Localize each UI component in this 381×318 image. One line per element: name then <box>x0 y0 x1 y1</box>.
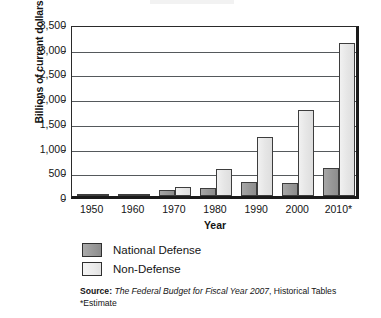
y-axis-tick-label: 1,500 <box>20 118 66 130</box>
y-axis-tick-label: 2,500 <box>20 68 66 80</box>
y-axis-tick-labels: 3,5003,0002,5002,0001,5001,0005000 <box>18 0 66 318</box>
bar-national-defense <box>200 188 216 196</box>
y-axis-tick-mark <box>62 51 66 52</box>
y-axis-tick-label: 500 <box>20 167 66 179</box>
x-axis-tick-label: 1950 <box>71 203 112 215</box>
y-axis-tick-label: 3,500 <box>20 19 66 31</box>
x-axis-tick-label: 2000 <box>277 203 318 215</box>
y-axis-tick-mark <box>62 150 66 151</box>
source-label: Source: <box>80 286 112 296</box>
bar-non-defense <box>257 137 273 196</box>
bar-non-defense <box>93 194 109 196</box>
source-block: Source: The Federal Budget for Fiscal Ye… <box>80 286 380 309</box>
x-axis-tick-label: 1960 <box>112 203 153 215</box>
scan-artifact <box>150 0 234 4</box>
bar-group <box>72 194 113 196</box>
legend-item-national-defense: National Defense <box>82 240 201 259</box>
bar-group <box>237 137 278 196</box>
bar-group <box>195 169 236 196</box>
legend-item-non-defense: Non-Defense <box>82 259 201 278</box>
y-axis-tick-mark <box>62 174 66 175</box>
source-citation: Source: The Federal Budget for Fiscal Ye… <box>80 286 380 298</box>
bar-non-defense <box>216 169 232 196</box>
bar-group <box>278 110 319 197</box>
source-tail: , Historical Tables <box>269 286 336 296</box>
bar-non-defense <box>298 110 314 197</box>
bar-non-defense <box>175 187 191 196</box>
y-axis-tick-label: 2,000 <box>20 93 66 105</box>
estimate-footnote: *Estimate <box>80 298 380 310</box>
x-axis-tick-label: 1970 <box>153 203 194 215</box>
x-axis-tick-label: 2010* <box>318 203 359 215</box>
bar-national-defense <box>159 190 175 196</box>
plot-area <box>71 26 359 199</box>
y-axis-tick-label: 0 <box>20 192 66 204</box>
bar-chart-figure: Billions of current dollars 3,5003,0002,… <box>0 0 381 318</box>
legend-swatch-non-defense <box>82 262 102 276</box>
x-axis-tick-labels: 1950196019701980199020002010* <box>71 203 359 219</box>
bar-group <box>154 187 195 196</box>
bar-national-defense <box>323 168 339 196</box>
y-axis-tick-mark <box>62 125 66 126</box>
legend-swatch-national-defense <box>82 243 102 257</box>
bar-group <box>319 43 360 196</box>
y-axis-tick-mark <box>62 199 66 200</box>
chart-legend: National Defense Non-Defense <box>82 240 201 278</box>
bar-non-defense <box>134 194 150 196</box>
y-axis-tick-mark <box>62 100 66 101</box>
bar-non-defense <box>339 43 355 196</box>
bar-national-defense <box>77 194 93 196</box>
y-axis-tick-mark <box>62 26 66 27</box>
source-title: The Federal Budget for Fiscal Year 2007 <box>114 286 269 296</box>
x-axis-title: Year <box>71 219 359 231</box>
legend-label-non-defense: Non-Defense <box>113 263 181 275</box>
x-axis-tick-label: 1980 <box>194 203 235 215</box>
bar-national-defense <box>282 183 298 196</box>
bars-layer <box>72 27 356 196</box>
y-axis-tick-label: 3,000 <box>20 44 66 56</box>
bar-national-defense <box>118 194 134 196</box>
bar-national-defense <box>241 182 257 196</box>
y-axis-tick-mark <box>62 75 66 76</box>
legend-label-national-defense: National Defense <box>113 244 201 256</box>
y-axis-tick-label: 1,000 <box>20 143 66 155</box>
bar-group <box>113 194 154 196</box>
x-axis-tick-label: 1990 <box>236 203 277 215</box>
